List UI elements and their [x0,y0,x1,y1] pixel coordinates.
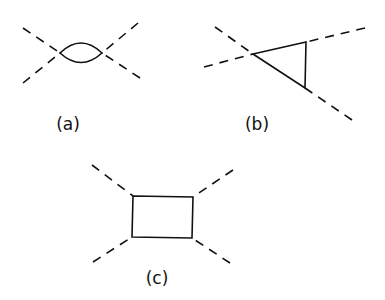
external-leg [215,27,253,54]
external-leg [305,88,352,120]
external-leg [23,53,60,83]
external-leg [204,54,253,67]
loop-propagator-upper [60,43,102,53]
external-leg [93,237,132,262]
external-leg [306,28,365,42]
external-leg [23,28,60,53]
diagram-a-bubble [23,23,140,83]
diagram-b-triangle [204,27,365,120]
diagram-label-a: (a) [56,114,80,134]
diagram-label-c: (c) [146,268,169,288]
loop-propagator-lower [60,53,102,63]
external-leg [92,165,133,196]
external-leg [193,170,233,197]
external-leg [102,23,138,53]
diagram-label-b: (b) [245,114,269,134]
feynman-diagrams-canvas [0,0,385,300]
box-loop [132,196,193,238]
triangle-loop [253,42,306,88]
external-leg [192,238,230,263]
diagram-c-box [92,165,233,263]
external-leg [102,53,140,78]
